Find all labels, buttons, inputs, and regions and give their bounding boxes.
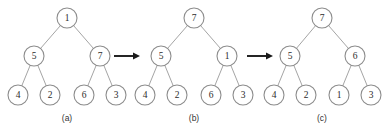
tree-node-3: 3: [361, 85, 381, 105]
node-value-label: 3: [369, 90, 374, 100]
tree-node-2: 2: [167, 85, 187, 105]
tree-edge: [104, 65, 112, 86]
panel-caption: (b): [189, 113, 200, 123]
tree-edge: [296, 26, 315, 49]
tree-node-4: 4: [135, 85, 155, 105]
node-value-label: 6: [209, 90, 214, 100]
node-value-label: 5: [32, 51, 37, 61]
node-value-label: 2: [304, 90, 309, 100]
tree-node-2: 2: [40, 85, 60, 105]
node-value-label: 6: [353, 51, 358, 61]
tree-edge: [294, 65, 302, 86]
tree-node-7: 7: [312, 8, 332, 28]
node-value-label: 2: [175, 90, 180, 100]
tree-transformation-figure: 1574263(a)7514263(b)7564213(c): [0, 0, 392, 134]
tree-node-4: 4: [8, 85, 28, 105]
tree-edge: [41, 26, 61, 49]
tree-edge: [278, 65, 286, 86]
node-value-label: 1: [337, 90, 342, 100]
arrow-b-to-c: [247, 52, 273, 59]
tree-node-6: 6: [201, 85, 221, 105]
node-value-label: 1: [225, 51, 230, 61]
tree-edge: [215, 65, 223, 86]
arrow-head-icon: [133, 52, 140, 59]
tree-node-5: 5: [280, 46, 300, 66]
tree-panel-c: 7564213(c): [264, 8, 381, 123]
arrow-a-to-b: [114, 52, 140, 59]
node-value-label: 4: [272, 90, 277, 100]
tree-edge: [165, 65, 173, 86]
node-value-label: 5: [288, 51, 293, 61]
tree-edge: [168, 26, 188, 49]
arrow-head-icon: [266, 52, 273, 59]
tree-edge: [329, 26, 349, 49]
node-value-label: 5: [159, 51, 164, 61]
tree-edge: [231, 65, 239, 86]
node-value-label: 7: [98, 51, 103, 61]
tree-node-7: 7: [90, 46, 110, 66]
tree-edge: [343, 65, 351, 86]
tree-edge: [88, 65, 96, 86]
tree-node-3: 3: [106, 85, 126, 105]
tree-node-6: 6: [345, 46, 365, 66]
tree-node-3: 3: [233, 85, 253, 105]
tree-edge: [22, 65, 30, 86]
node-value-label: 2: [48, 90, 53, 100]
tree-edge: [149, 65, 157, 86]
node-value-label: 4: [16, 90, 21, 100]
node-value-label: 6: [82, 90, 87, 100]
tree-node-4: 4: [264, 85, 284, 105]
node-value-label: 3: [241, 90, 246, 100]
panel-caption: (a): [62, 113, 73, 123]
tree-node-1: 1: [57, 8, 77, 28]
node-value-label: 3: [114, 90, 119, 100]
tree-node-5: 5: [24, 46, 44, 66]
tree-edge: [38, 65, 46, 86]
tree-node-2: 2: [296, 85, 316, 105]
node-value-label: 7: [320, 13, 325, 23]
node-value-label: 1: [65, 13, 70, 23]
tree-node-1: 1: [217, 46, 237, 66]
node-value-label: 4: [143, 90, 148, 100]
tree-panel-b: 7514263(b): [135, 8, 253, 123]
figure-canvas: 1574263(a)7514263(b)7564213(c): [0, 0, 392, 134]
tree-node-5: 5: [151, 46, 171, 66]
node-value-label: 7: [192, 13, 197, 23]
tree-edge: [359, 65, 367, 86]
tree-edge: [74, 26, 94, 49]
tree-edge: [201, 26, 221, 49]
panel-caption: (c): [317, 113, 327, 123]
tree-node-6: 6: [74, 85, 94, 105]
tree-node-7: 7: [184, 8, 204, 28]
tree-node-1: 1: [329, 85, 349, 105]
tree-panel-a: 1574263(a): [8, 8, 126, 123]
